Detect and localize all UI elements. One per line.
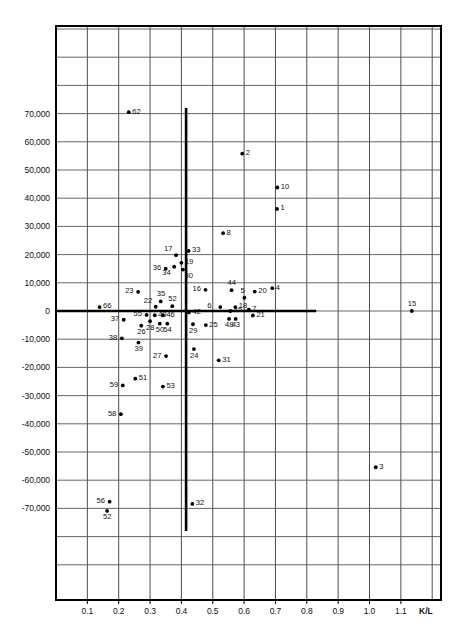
data-point (98, 305, 102, 309)
point-label: 44 (228, 279, 236, 287)
data-point (136, 290, 140, 294)
point-label: 45 (234, 306, 242, 314)
data-point (204, 323, 208, 327)
data-point (275, 207, 279, 211)
point-label: 20 (258, 287, 266, 295)
x-axis-title: K/L (419, 606, 433, 616)
data-point (247, 308, 251, 312)
point-label: 66 (103, 302, 111, 310)
point-label: 51 (139, 374, 147, 382)
x-tick-label: 0.8 (292, 606, 322, 616)
point-label: 55 (134, 310, 142, 318)
x-tick-label: 0.9 (323, 606, 353, 616)
y-tick-label: 70,000 (2, 109, 50, 119)
scatter-plot-figure: 70,00060,00050,00040,00030,00020,00010,0… (0, 0, 466, 637)
data-point (122, 318, 126, 322)
data-point (230, 288, 234, 292)
y-tick-label: -30,000 (2, 391, 50, 401)
point-label: 38 (109, 334, 117, 342)
data-point (120, 336, 124, 340)
point-label: 36 (153, 264, 161, 272)
point-label: 54 (163, 326, 171, 334)
x-tick-label: 0.7 (260, 606, 290, 616)
point-label: 34 (162, 269, 170, 277)
point-label: 59 (110, 381, 118, 389)
grid-lines (56, 26, 441, 600)
data-point (154, 305, 158, 309)
data-point (275, 186, 279, 190)
data-point (127, 110, 131, 114)
x-tick-label: 0.6 (229, 606, 259, 616)
point-label: 27 (153, 352, 161, 360)
y-tick-label: -70,000 (2, 503, 50, 513)
point-label: 10 (281, 183, 289, 191)
x-tick-label: 1.1 (386, 606, 416, 616)
data-point (153, 313, 157, 317)
data-point (187, 311, 191, 315)
data-point (204, 288, 208, 292)
data-point (228, 309, 232, 313)
point-label: 4 (276, 284, 280, 292)
point-label: 3 (379, 463, 383, 471)
point-label: 17 (164, 245, 172, 253)
point-label: 15 (408, 300, 416, 308)
data-point (174, 253, 178, 257)
data-point (218, 305, 222, 309)
y-tick-label: 50,000 (2, 165, 50, 175)
y-tick-label: 0 (2, 306, 50, 316)
data-point (180, 261, 184, 265)
x-tick-label: 0.3 (135, 606, 165, 616)
point-label: 6 (207, 302, 211, 310)
data-point (190, 502, 194, 506)
point-label: 24 (190, 352, 198, 360)
point-label: 2 (246, 149, 250, 157)
point-label: 1 (281, 204, 285, 212)
y-tick-label: -20,000 (2, 362, 50, 372)
point-label: 19 (185, 258, 193, 266)
point-label: 56 (97, 497, 105, 505)
x-tick-label: 0.2 (104, 606, 134, 616)
plot-canvas (0, 0, 466, 637)
x-tick-label: 0.4 (166, 606, 196, 616)
point-label: 42 (192, 308, 200, 316)
reference-lines (56, 108, 316, 531)
data-point (161, 385, 165, 389)
data-point (374, 465, 378, 469)
point-label: 31 (222, 356, 230, 364)
data-point (159, 300, 163, 304)
point-label: 35 (157, 290, 165, 298)
data-point (187, 249, 191, 253)
data-point (251, 314, 255, 318)
point-label: 52 (168, 295, 176, 303)
point-label: 5 (240, 287, 244, 295)
data-point (170, 304, 174, 308)
point-label: 52 (103, 513, 111, 521)
point-label: 46 (166, 311, 174, 319)
data-point (121, 384, 125, 388)
point-label: 26 (137, 328, 145, 336)
point-label: 33 (192, 246, 200, 254)
point-label: 8 (227, 229, 231, 237)
data-point (133, 377, 137, 381)
x-tick-label: 0.5 (198, 606, 228, 616)
point-label: 28 (146, 324, 154, 332)
point-label: 22 (144, 297, 152, 305)
point-label: 21 (256, 311, 264, 319)
data-point (410, 309, 414, 313)
y-tick-label: 60,000 (2, 137, 50, 147)
point-label: 58 (108, 410, 116, 418)
point-label: 30 (184, 272, 192, 280)
point-label: 37 (111, 315, 119, 323)
y-tick-label: -60,000 (2, 475, 50, 485)
point-label: 23 (125, 287, 133, 295)
x-tick-label: 0.1 (72, 606, 102, 616)
data-point (217, 358, 221, 362)
point-label: 53 (166, 382, 174, 390)
y-tick-label: 30,000 (2, 221, 50, 231)
point-label: 32 (196, 499, 204, 507)
data-point (119, 412, 123, 416)
data-point (108, 500, 112, 504)
point-label: 62 (132, 108, 140, 116)
y-tick-label: -50,000 (2, 447, 50, 457)
data-point (172, 265, 176, 269)
